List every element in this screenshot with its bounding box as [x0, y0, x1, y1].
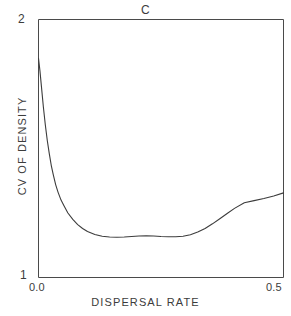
chart-title: C: [0, 3, 291, 17]
y-axis-tick-label-top: 2: [18, 12, 25, 26]
x-axis-tick-label-right: 0.5: [266, 281, 282, 293]
plot-canvas: [0, 0, 291, 316]
y-axis-tick-label-bottom: 1: [20, 268, 27, 282]
plot-frame: [39, 20, 284, 278]
chart-figure: C 2 1 0.0 0.5 CV OF DENSITY DISPERSAL RA…: [0, 0, 291, 316]
data-series-group: [39, 58, 284, 237]
x-axis-tick-label-left: 0.0: [29, 281, 45, 293]
x-axis-label: DISPERSAL RATE: [0, 296, 291, 308]
y-axis-label: CV OF DENSITY: [16, 81, 28, 211]
data-line-cv-of-density: [39, 58, 284, 237]
axes-frame-path: [39, 20, 284, 278]
